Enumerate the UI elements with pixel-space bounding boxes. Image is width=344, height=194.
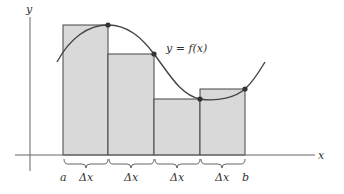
delta-x-label-2: Δx [123,171,139,184]
brace-1 [64,159,108,168]
sample-point-3 [197,96,202,101]
curve-label: y = f(x) [165,42,207,55]
x-axis-label: x [318,149,325,162]
y-axis-label: y [25,3,33,16]
delta-x-label-4: Δx [214,171,230,184]
interval-end-label: b [242,171,249,184]
riemann-sum-diagram: y x y = f(x) a b Δx Δx Δx Δx [0,0,344,194]
delta-x-label-3: Δx [169,171,185,184]
braces [64,159,245,168]
rectangles [63,25,245,155]
sample-point-1 [105,22,110,27]
rectangle-2 [108,54,154,155]
delta-x-label-1: Δx [78,171,94,184]
interval-start-label: a [60,171,67,184]
brace-4 [201,159,245,168]
rectangle-3 [154,99,200,155]
sample-point-2 [151,51,156,56]
sample-point-4 [242,86,247,91]
brace-2 [109,159,154,168]
brace-3 [155,159,200,168]
